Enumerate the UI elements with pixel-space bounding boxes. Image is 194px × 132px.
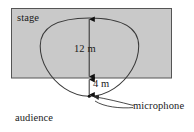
microphone-label: microphone: [133, 101, 184, 112]
dimension-label-12m: 12 m: [74, 44, 96, 55]
figure-root: stage 12 m 4 m audience microphone: [0, 0, 194, 132]
audience-label: audience: [15, 113, 53, 124]
microphone-point-marker: [88, 95, 91, 98]
microphone-leader-lower: [95, 101, 133, 108]
dimension-label-4m: 4 m: [93, 79, 109, 90]
microphone-leader-upper: [94, 97, 134, 106]
stage-label: stage: [17, 13, 39, 24]
